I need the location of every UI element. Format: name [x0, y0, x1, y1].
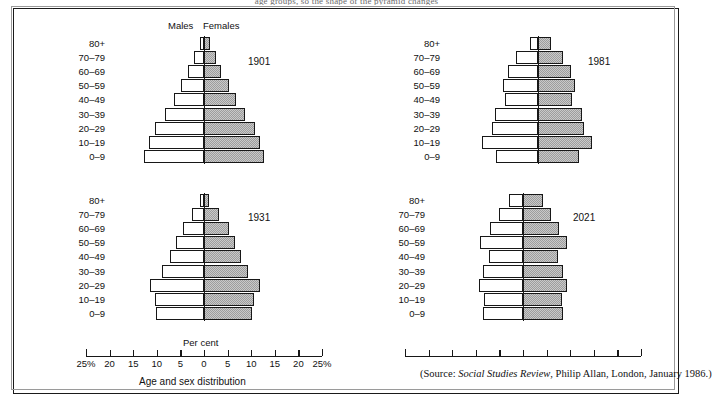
axis-title: Age and sex distribution [139, 376, 246, 387]
axis-tick [641, 349, 642, 356]
axis-tick-label: 10 [152, 358, 163, 369]
bar-male [489, 250, 523, 263]
axis-tick-label: 0 [201, 358, 206, 369]
axis-tick-label: 25% [312, 358, 331, 369]
bar-female [523, 265, 563, 278]
source-publication: Social Studies Review [458, 368, 550, 379]
axis-line [86, 356, 322, 357]
x-axis-scale-right [405, 356, 641, 366]
axis-tick [228, 350, 229, 356]
bar-female [523, 307, 563, 320]
axis-tick [298, 350, 299, 356]
axis-tick-label: 15 [270, 358, 281, 369]
age-group-label: 30–39 [365, 267, 425, 277]
age-group-label: 40–49 [365, 252, 425, 262]
axis-tick-label: 15 [128, 358, 139, 369]
age-group-label: 0–9 [365, 309, 425, 319]
axis-tick [157, 350, 158, 356]
axis-tick [547, 350, 548, 356]
bar-male [479, 279, 523, 292]
bar-male [480, 236, 523, 249]
axis-tick-label: 10 [246, 358, 257, 369]
axis-tick-label: 25% [76, 358, 95, 369]
axis-tick [86, 349, 87, 356]
bar-male [483, 307, 523, 320]
axis-tick [499, 350, 500, 356]
age-group-label: 10–19 [365, 295, 425, 305]
axis-tick [429, 350, 430, 356]
axis-tick-label: 5 [178, 358, 183, 369]
bar-female [523, 293, 562, 306]
axis-tick [476, 350, 477, 356]
bar-male [490, 222, 523, 235]
axis-tick-label: 5 [225, 358, 230, 369]
axis-tick [594, 350, 595, 356]
axis-tick [405, 349, 406, 356]
age-group-label: 70–79 [365, 210, 425, 220]
age-group-label: 60–69 [365, 224, 425, 234]
bar-female [523, 222, 559, 235]
axis-tick [133, 350, 134, 356]
bar-female [523, 250, 558, 263]
age-group-label: 50–59 [365, 238, 425, 248]
bar-male [499, 208, 523, 221]
axis-tick [251, 350, 252, 356]
age-group-label: 20–29 [365, 281, 425, 291]
source-suffix: , Philip Allan, London, January 1986.) [550, 368, 711, 379]
bar-male [484, 293, 523, 306]
axis-tick [617, 350, 618, 356]
bar-female [523, 194, 543, 207]
source-prefix: (Source: [420, 368, 458, 379]
axis-tick-label: 20 [104, 358, 115, 369]
bar-female [523, 236, 567, 249]
axis-tick [110, 350, 111, 356]
bar-male [509, 194, 523, 207]
bar-female [523, 279, 567, 292]
bar-female [523, 208, 551, 221]
x-axis-scale-left: 25%20151050510152025% [86, 356, 322, 376]
source-citation: (Source: Social Studies Review, Philip A… [420, 368, 712, 379]
axis-tick [275, 350, 276, 356]
axis-tick [204, 350, 205, 356]
axis-tick [180, 350, 181, 356]
axis-tick [523, 350, 524, 356]
pyramid-year-label: 2021 [573, 212, 595, 223]
axis-tick [452, 350, 453, 356]
age-group-label: 80+ [365, 196, 425, 206]
axis-tick [570, 350, 571, 356]
axis-line [405, 356, 641, 357]
bar-male [483, 265, 523, 278]
axis-tick-label: 20 [293, 358, 304, 369]
per-cent-axis-label: Per cent [183, 337, 218, 348]
axis-tick [322, 349, 323, 356]
